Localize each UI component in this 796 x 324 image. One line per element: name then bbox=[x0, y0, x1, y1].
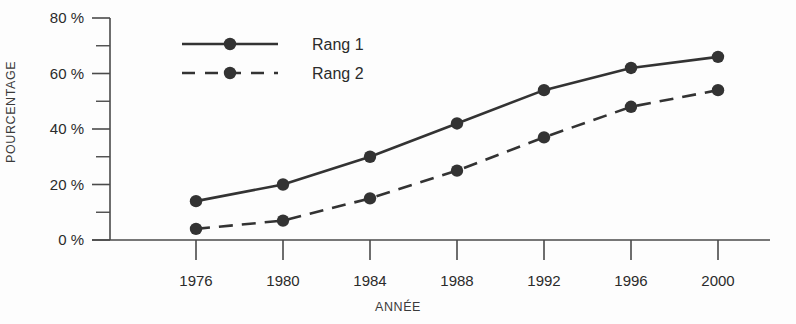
legend-item-1: Rang 1 bbox=[182, 36, 364, 53]
legend-label: Rang 2 bbox=[312, 65, 364, 82]
line-chart: 0 %20 %40 %60 %80 % 19761980198419881992… bbox=[0, 0, 796, 324]
y-tick-label: 20 % bbox=[50, 176, 84, 193]
legend-marker bbox=[224, 67, 236, 79]
series-line bbox=[196, 90, 718, 229]
data-point-marker bbox=[712, 84, 724, 96]
data-point-marker bbox=[190, 223, 202, 235]
y-tick-label: 0 % bbox=[58, 231, 84, 248]
data-point-marker bbox=[712, 51, 724, 63]
x-tick-label: 1988 bbox=[440, 272, 473, 289]
x-axis-title: ANNÉE bbox=[0, 300, 796, 314]
legend-label: Rang 1 bbox=[312, 36, 364, 53]
series-2 bbox=[190, 84, 724, 235]
legend-item-2: Rang 2 bbox=[182, 65, 364, 82]
x-tick-label: 1992 bbox=[527, 272, 560, 289]
data-point-marker bbox=[538, 84, 550, 96]
data-point-marker bbox=[625, 62, 637, 74]
y-tick-label: 40 % bbox=[50, 120, 84, 137]
x-tick-label: 1984 bbox=[353, 272, 386, 289]
chart-canvas: 0 %20 %40 %60 %80 % 19761980198419881992… bbox=[0, 0, 796, 324]
data-point-marker bbox=[364, 192, 376, 204]
x-tick-label: 2000 bbox=[701, 272, 734, 289]
data-point-marker bbox=[364, 151, 376, 163]
data-point-marker bbox=[451, 164, 463, 176]
x-axis: 1976198019841988199219962000 bbox=[92, 240, 770, 289]
data-point-marker bbox=[277, 178, 289, 190]
legend-marker bbox=[224, 38, 236, 50]
x-tick-label: 1976 bbox=[179, 272, 212, 289]
x-tick-label: 1980 bbox=[266, 272, 299, 289]
data-point-marker bbox=[451, 117, 463, 129]
chart-legend: Rang 1Rang 2 bbox=[182, 36, 364, 82]
y-axis-title: POURCENTAGE bbox=[4, 61, 18, 163]
data-point-marker bbox=[625, 101, 637, 113]
series-1 bbox=[190, 51, 724, 208]
y-tick-label: 80 % bbox=[50, 9, 84, 26]
data-point-marker bbox=[277, 214, 289, 226]
data-series-group bbox=[190, 51, 724, 235]
data-point-marker bbox=[538, 131, 550, 143]
y-tick-label: 60 % bbox=[50, 65, 84, 82]
data-point-marker bbox=[190, 195, 202, 207]
x-tick-label: 1996 bbox=[614, 272, 647, 289]
y-axis: 0 %20 %40 %60 %80 % bbox=[50, 9, 110, 248]
